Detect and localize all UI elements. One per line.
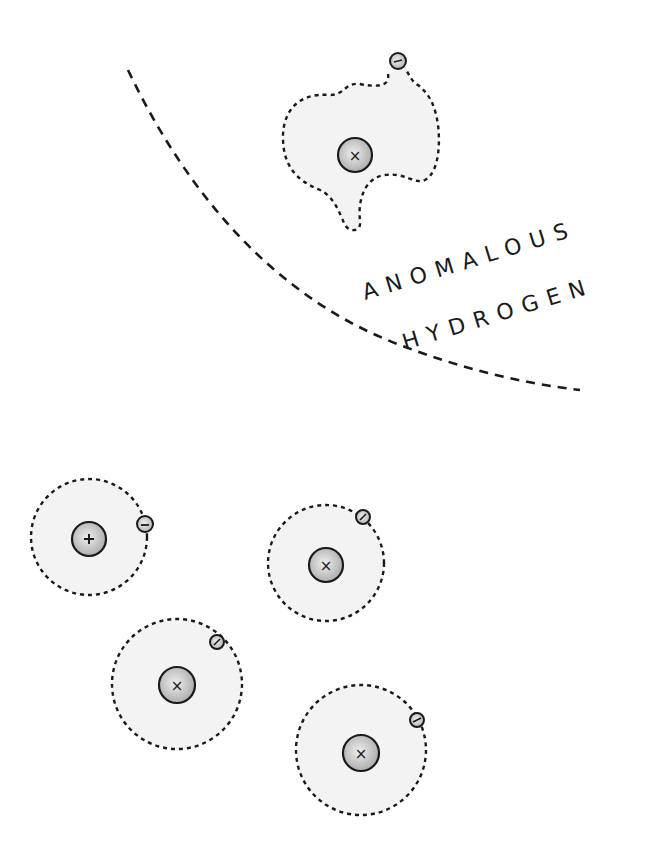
anomalous-hydrogen-atom: × bbox=[283, 53, 439, 230]
hydrogen-atom-plus bbox=[31, 479, 153, 595]
neutral-x-symbol: × bbox=[320, 557, 333, 575]
illustration-canvas: × ANOMALOUS HYDROGEN × × × bbox=[0, 0, 645, 853]
hydrogen-atom-3: × bbox=[296, 685, 426, 815]
neutral-x-symbol: × bbox=[171, 677, 184, 695]
anomalous-hydrogen-label: ANOMALOUS HYDROGEN bbox=[359, 216, 597, 355]
hydrogen-atom-2: × bbox=[112, 619, 242, 749]
neutral-x-symbol: × bbox=[355, 745, 368, 763]
hydrogen-atom-1: × bbox=[268, 505, 384, 621]
neutral-x-symbol: × bbox=[349, 147, 362, 165]
electron bbox=[137, 516, 153, 532]
